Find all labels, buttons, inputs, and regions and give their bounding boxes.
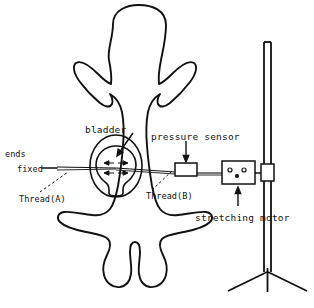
- pressure-sensor-box: [175, 163, 197, 176]
- label-ends: ends: [5, 149, 26, 159]
- label-stretching-motor: stretching motor: [195, 212, 290, 223]
- diagram-canvas: bladder pressure sensor ends fixed Threa…: [0, 0, 314, 308]
- stand-clamp: [261, 164, 274, 181]
- frog-bladder-stretching-diagram: bladder pressure sensor ends fixed Threa…: [0, 0, 314, 308]
- label-pressure-sensor: pressure sensor: [151, 131, 240, 142]
- label-fixed: fixed: [17, 164, 43, 174]
- motor-detail-dot-center: [235, 174, 239, 178]
- label-thread-a: Thread(A): [19, 194, 66, 204]
- label-thread-b: Thread(B): [146, 191, 193, 201]
- stretching-motor-box: [222, 161, 255, 184]
- label-bladder: bladder: [85, 124, 127, 135]
